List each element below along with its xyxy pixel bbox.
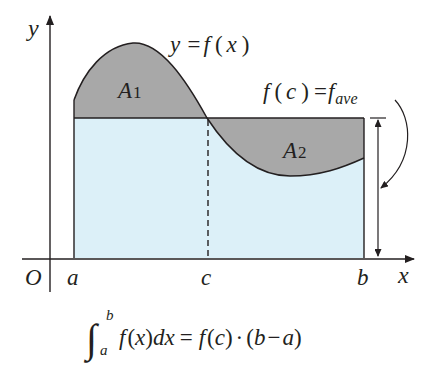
curve-label: y =f(x) (168, 32, 249, 57)
integral-lower-limit: a (100, 342, 108, 358)
mean-value-diagram: y x O a c b y =f(x) f(c)=fave A1 A2 ∫ b … (0, 0, 431, 379)
tick-label-c: c (201, 265, 211, 290)
tick-label-a: a (67, 265, 79, 290)
average-label: f(c)=fave (263, 79, 358, 107)
mean-value-formula: ∫ b a f(x)dx=f(c)·(b−a) (83, 307, 302, 363)
curved-pointer-arrow (381, 100, 408, 188)
y-axis-label: y (26, 15, 39, 41)
svg-text:f(x)dx=f(c)·(b−a): f(x)dx=f(c)·(b−a) (119, 325, 302, 350)
svg-text:y =f(x): y =f(x) (168, 32, 249, 57)
integral-upper-limit: b (106, 307, 114, 323)
tick-label-b: b (357, 265, 369, 290)
origin-label: O (25, 265, 42, 290)
integral-sign: ∫ (83, 316, 100, 363)
svg-text:f(c)=fave: f(c)=fave (263, 79, 358, 107)
x-axis-label: x (397, 262, 409, 288)
